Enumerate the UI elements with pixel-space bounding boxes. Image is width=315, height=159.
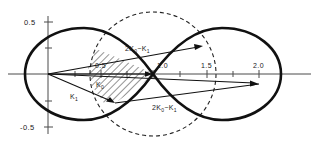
- label-vector-upper-sub-b: 1: [147, 48, 150, 54]
- label-vector-lower-b: −K: [164, 104, 173, 111]
- label-vector-upper-b: −K: [137, 45, 146, 52]
- y-tick-label--0.5: -0.5: [20, 123, 35, 132]
- label-k1-sub: 1: [75, 96, 78, 102]
- label-vector-upper-a: 2K: [125, 45, 134, 52]
- figure-root: 0.5 -0.5 0.5 1.0 1.5 2.0 K0 K1 2K0−K1 2K…: [0, 0, 315, 159]
- label-vector-lower: 2K0−K1: [152, 104, 177, 113]
- label-k1: K1: [70, 93, 78, 102]
- label-k0-sub: 0: [101, 84, 104, 90]
- label-vector-lower-a: 2K: [152, 104, 161, 111]
- y-tick-label-0.5: 0.5: [24, 18, 36, 27]
- x-tick-label-2.0: 2.0: [253, 62, 264, 69]
- wave-vector-diagram: 0.5 -0.5 0.5 1.0 1.5 2.0 K0 K1 2K0−K1 2K…: [0, 0, 315, 159]
- vector-2k0-k1-lower-arrowhead: [250, 81, 259, 87]
- label-vector-upper: 2K0−K1: [125, 45, 150, 54]
- vector-2k0-k1-upper-arrowhead: [194, 44, 203, 50]
- label-vector-lower-sub-b: 1: [174, 107, 177, 113]
- x-tick-label-1.0: 1.0: [157, 62, 168, 69]
- x-tick-label-1.5: 1.5: [201, 62, 212, 69]
- x-tick-label-0.5: 0.5: [95, 62, 106, 69]
